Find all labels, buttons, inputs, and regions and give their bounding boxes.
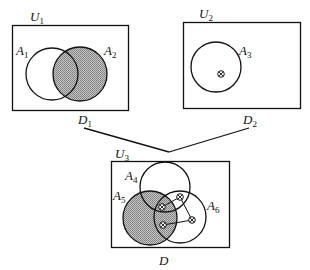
universe-u3-label: U3: [115, 146, 129, 163]
domain-d2-label: D2: [242, 112, 257, 129]
set-a1-label: A1: [15, 43, 28, 60]
point-otimes-icon: [177, 194, 184, 201]
set-a2-circle: [53, 47, 107, 101]
set-a2-label: A2: [103, 43, 116, 60]
domain-d-label: D: [158, 253, 169, 268]
panel-d: U3 A4 A5 A6: [112, 146, 230, 268]
set-a6-label: A6: [206, 198, 220, 215]
set-a5-label: A5: [112, 188, 126, 205]
panel-d1: U1 A1 A2 D1: [13, 9, 129, 129]
domain-d1-label: D1: [77, 112, 92, 129]
set-a3-circle: [191, 42, 241, 92]
set-a5-circle: [123, 191, 177, 245]
set-a3-label: A3: [238, 43, 252, 60]
universe-u2-box: [184, 23, 301, 109]
panel-d2: U2 A3 D2: [184, 6, 301, 129]
universe-u1-label: U1: [30, 9, 44, 26]
point-otimes-icon: [189, 217, 196, 224]
universe-u2-label: U2: [199, 6, 213, 23]
set-a4-label: A4: [124, 168, 138, 185]
point-otimes-icon: [160, 222, 167, 229]
venn-diagram-canvas: U1 A1 A2 D1 U2 A3 D2 U3 A4 A5 A6: [0, 0, 310, 270]
point-otimes-icon: [159, 204, 166, 211]
composition-connector: [84, 128, 249, 152]
point-otimes-icon: [218, 71, 225, 78]
